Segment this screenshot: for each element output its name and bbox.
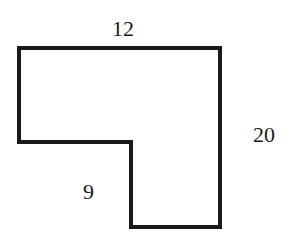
right-side-length-label: 20	[253, 124, 275, 146]
diagram-canvas: 12 20 9	[0, 0, 293, 235]
l-shape-outline	[19, 48, 220, 227]
l-shape-figure	[0, 0, 293, 235]
top-side-length-label: 12	[112, 18, 134, 40]
inner-vertical-side-length-label: 9	[83, 181, 94, 203]
